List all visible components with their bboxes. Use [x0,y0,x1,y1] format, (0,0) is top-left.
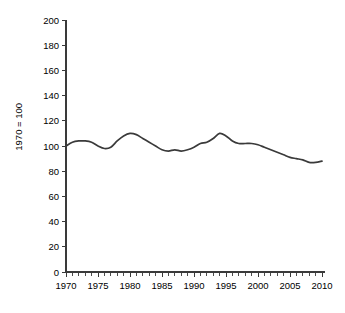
x-axis-tick-labels: 197019751980198519901995200020052010 [55,280,332,291]
y-axis-tick-labels: 020406080100120140160180200 [43,15,59,278]
chart-container: 020406080100120140160180200 197019751980… [0,0,345,313]
data-series-line [66,133,322,162]
x-axis-minor-tick-marks [66,272,322,277]
y-axis-tick-label: 160 [43,65,59,76]
y-axis-tick-label: 60 [48,191,59,202]
x-axis-tick-label: 1995 [215,280,236,291]
x-axis-tick-label: 1970 [55,280,76,291]
x-axis-tick-label: 1975 [87,280,108,291]
y-axis-title: 1970 = 100 [13,103,24,151]
y-axis-tick-label: 180 [43,40,59,51]
x-axis-tick-label: 1980 [119,280,140,291]
line-chart: 020406080100120140160180200 197019751980… [0,0,345,313]
x-axis-tick-label: 1985 [151,280,172,291]
y-axis-tick-label: 100 [43,141,59,152]
y-axis-tick-label: 140 [43,90,59,101]
x-axis-tick-label: 2000 [247,280,268,291]
y-axis-tick-label: 80 [48,166,59,177]
y-axis-tick-label: 40 [48,216,59,227]
x-axis-tick-label: 2005 [279,280,300,291]
y-axis-tick-label: 200 [43,15,59,26]
y-axis-tick-label: 0 [54,267,59,278]
x-axis-tick-label: 2010 [311,280,332,291]
y-axis-tick-label: 120 [43,115,59,126]
y-axis-tick-label: 20 [48,241,59,252]
x-axis-tick-label: 1990 [183,280,204,291]
